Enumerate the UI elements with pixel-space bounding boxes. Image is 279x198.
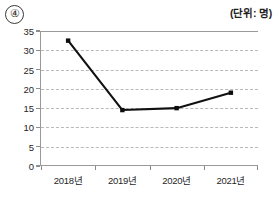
x-tick-mark	[204, 166, 205, 170]
y-tick-label: 0	[29, 161, 34, 172]
y-tick-label: 5	[29, 141, 34, 152]
y-tick-mark	[36, 108, 40, 109]
x-tick-mark	[95, 166, 96, 170]
x-tick-label: 2019년	[108, 173, 137, 187]
y-tick-label: 25	[23, 64, 34, 75]
data-point-marker	[120, 108, 124, 112]
series-line	[68, 41, 231, 110]
x-tick-mark	[257, 166, 258, 170]
x-tick-mark	[150, 166, 151, 170]
x-tick-label: 2021년	[217, 173, 246, 187]
data-series	[41, 31, 258, 166]
y-tick-mark	[36, 30, 40, 31]
data-point-marker	[229, 91, 233, 95]
unit-label: (단위: 명)	[230, 5, 272, 20]
y-tick-mark	[36, 127, 40, 128]
plot-area: 05101520253035 2018년2019년2020년2021년	[41, 31, 258, 166]
x-tick-label: 2020년	[162, 173, 191, 187]
chart-figure: ④ (단위: 명) 05101520253035 2018년2019년2020년…	[0, 0, 279, 198]
data-point-marker	[66, 38, 70, 42]
y-tick-label: 10	[23, 122, 34, 133]
x-tick-mark	[41, 166, 42, 170]
y-tick-mark	[36, 88, 40, 89]
y-tick-label: 15	[23, 103, 34, 114]
y-tick-label: 30	[23, 45, 34, 56]
x-tick-label: 2018년	[54, 173, 83, 187]
item-number-badge: ④	[5, 5, 24, 24]
y-tick-label: 20	[23, 83, 34, 94]
y-tick-mark	[36, 165, 40, 166]
y-tick-mark	[36, 69, 40, 70]
y-tick-label: 35	[23, 26, 34, 37]
y-tick-mark	[36, 146, 40, 147]
data-point-marker	[174, 106, 178, 110]
y-tick-mark	[36, 50, 40, 51]
